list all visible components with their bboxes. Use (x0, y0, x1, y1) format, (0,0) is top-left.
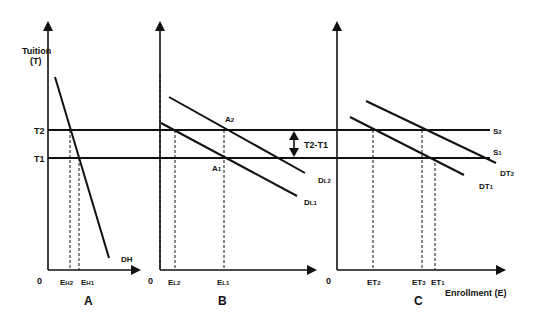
demand-curve-dt2 (366, 101, 496, 163)
origin-label-b: 0 (148, 276, 153, 286)
panel-c: S2 S1 DT2 DT1 0 ET2 ET3 ET1 Enrollment (… (326, 26, 515, 308)
supply-label-s1: S1 (493, 148, 502, 157)
y-axis-label-unit: (T) (30, 56, 42, 66)
point-label-a2: A2 (225, 115, 235, 124)
tick-label-eh1: EH1 (81, 278, 95, 287)
tick-label-et1: ET1 (431, 278, 445, 287)
tick-label-el1: EL1 (217, 278, 230, 287)
tick-label-t1: T1 (34, 154, 45, 164)
curve-label-dh: DH (121, 255, 133, 264)
panel-b: A2 A1 DL2 DL1 0 EL2 EL1 B T2-T1 (148, 26, 331, 308)
curve-label-dt2: DT2 (500, 169, 515, 178)
point-label-a1: A1 (212, 164, 222, 173)
demand-curve-dh (55, 77, 109, 258)
curve-label-dl1: DL1 (304, 198, 317, 207)
y-axis-label: Tuition (22, 46, 51, 56)
x-axis-label: Enrollment (E) (445, 288, 507, 298)
tick-label-t2: T2 (34, 126, 45, 136)
curve-label-dl2: DL2 (318, 176, 331, 185)
curve-label-dt1: DT1 (479, 182, 494, 191)
origin-label-c: 0 (326, 276, 331, 286)
panel-title-b: B (218, 294, 227, 308)
difference-arrow-up-icon (289, 131, 299, 140)
panel-title-c: C (414, 294, 423, 308)
panel-title-a: A (84, 294, 93, 308)
origin-label-a: 0 (37, 276, 42, 286)
tick-label-el2: EL2 (168, 278, 181, 287)
tuition-enrollment-diagram: Tuition (T) T2 T1 DH 0 EH2 EH1 A A2 A1 D… (0, 0, 533, 323)
panel-a: Tuition (T) T2 T1 DH 0 EH2 EH1 A (22, 26, 136, 308)
tick-label-et2: ET2 (367, 278, 381, 287)
difference-label: T2-T1 (304, 140, 328, 150)
demand-curve-dl2 (169, 97, 305, 173)
supply-label-s2: S2 (493, 127, 502, 136)
demand-curve-dl1 (161, 123, 297, 196)
difference-arrow-down-icon (289, 148, 299, 157)
tick-label-eh2: EH2 (60, 278, 74, 287)
tick-label-et3: ET3 (412, 278, 426, 287)
demand-curve-dt1 (350, 117, 464, 175)
